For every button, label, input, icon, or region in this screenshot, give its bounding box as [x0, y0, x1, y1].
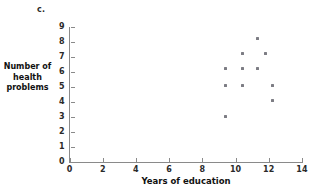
y-tick-label: 1: [53, 142, 65, 151]
y-axis-title: Number of health problems: [0, 62, 55, 94]
x-tick-label: 6: [162, 165, 176, 174]
y-tick-label: 7: [53, 52, 65, 61]
x-tick-mark: [136, 158, 137, 162]
x-tick-label: 4: [129, 165, 143, 174]
panel-label: c.: [37, 5, 45, 15]
x-tick-label: 10: [229, 165, 243, 174]
data-point: [271, 84, 274, 87]
x-tick-label: 8: [195, 165, 209, 174]
x-tick-mark: [236, 158, 237, 162]
y-tick-mark: [71, 57, 75, 58]
scatter-plot-figure: c. Number of health problems Years of ed…: [0, 0, 314, 194]
y-tick-mark: [71, 162, 75, 163]
data-point: [224, 84, 227, 87]
y-tick-label: 8: [53, 37, 65, 46]
x-tick-label: 14: [295, 165, 309, 174]
y-axis-title-line-2: health: [0, 73, 55, 84]
y-tick-mark: [71, 72, 75, 73]
y-tick-label: 3: [53, 112, 65, 121]
x-tick-mark: [302, 158, 303, 162]
y-tick-mark: [71, 117, 75, 118]
x-tick-label: 12: [262, 165, 276, 174]
y-axis-title-line-1: Number of: [0, 62, 55, 73]
y-tick-label: 0: [53, 157, 65, 166]
data-point: [241, 67, 244, 70]
x-tick-mark: [169, 158, 170, 162]
x-tick-mark: [202, 158, 203, 162]
y-tick-label: 9: [53, 22, 65, 31]
data-point: [264, 52, 267, 55]
x-tick-mark: [269, 158, 270, 162]
x-tick-mark: [103, 158, 104, 162]
data-point: [271, 99, 274, 102]
y-tick-mark: [71, 147, 75, 148]
x-tick-label: 2: [96, 165, 110, 174]
data-point: [241, 84, 244, 87]
y-tick-label: 2: [53, 127, 65, 136]
y-tick-mark: [71, 42, 75, 43]
data-point: [256, 67, 259, 70]
x-axis-line: [69, 162, 303, 164]
y-tick-label: 6: [53, 67, 65, 76]
y-tick-mark: [71, 87, 75, 88]
y-tick-mark: [71, 132, 75, 133]
x-axis-title: Years of education: [68, 176, 304, 186]
y-tick-mark: [71, 27, 75, 28]
data-point: [256, 37, 259, 40]
data-point: [241, 52, 244, 55]
y-tick-label: 4: [53, 97, 65, 106]
y-axis-line: [69, 27, 71, 163]
y-tick-mark: [71, 102, 75, 103]
y-axis-title-line-3: problems: [0, 83, 55, 94]
data-point: [224, 115, 227, 118]
y-tick-label: 5: [53, 82, 65, 91]
data-point: [224, 67, 227, 70]
